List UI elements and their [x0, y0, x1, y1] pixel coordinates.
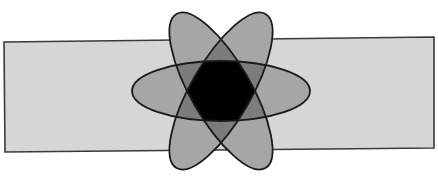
venn-diagram [0, 0, 438, 188]
